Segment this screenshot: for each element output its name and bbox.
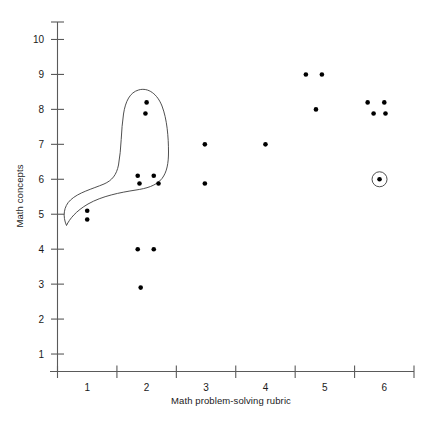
data-point (263, 142, 268, 147)
scatter-plot-figure: 12345678910 123456 Math problem-solving … (0, 0, 423, 421)
x-tick-label-3: 3 (203, 382, 209, 393)
y-tick-label-2: 2 (38, 314, 44, 325)
x-tick-label-1: 1 (84, 382, 90, 393)
data-point (143, 111, 148, 116)
data-point (144, 100, 149, 105)
data-point (137, 181, 142, 186)
data-point (371, 111, 376, 116)
data-points-group (85, 72, 388, 290)
x-tick-label-6: 6 (382, 382, 388, 393)
data-point (151, 173, 156, 178)
data-point (320, 72, 325, 77)
y-tick-label-8: 8 (38, 104, 44, 115)
data-point (135, 247, 140, 252)
x-tick-label-4: 4 (263, 382, 269, 393)
y-tick-label-6: 6 (38, 174, 44, 185)
data-point (383, 111, 388, 116)
y-tick-label-10: 10 (33, 34, 45, 45)
y-tick-label-4: 4 (38, 244, 44, 255)
data-point (151, 247, 156, 252)
y-tick-label-7: 7 (38, 139, 44, 150)
data-point (304, 72, 309, 77)
y-axis-title: Math concepts (14, 164, 25, 227)
cluster-outline-annotation (64, 89, 168, 225)
data-point (135, 173, 140, 178)
y-axis-tick-labels: 12345678910 (33, 34, 45, 360)
x-tick-label-5: 5 (322, 382, 328, 393)
y-tick-label-1: 1 (38, 349, 44, 360)
x-tick-label-2: 2 (144, 382, 150, 393)
y-tick-label-3: 3 (38, 279, 44, 290)
data-point (203, 142, 208, 147)
plot-canvas: 12345678910 123456 Math problem-solving … (0, 0, 423, 421)
y-tick-label-9: 9 (38, 69, 44, 80)
y-tick-label-5: 5 (38, 209, 44, 220)
data-point (85, 208, 90, 213)
data-point (377, 177, 382, 182)
data-point (203, 181, 208, 186)
data-point (365, 100, 370, 105)
data-point (314, 107, 319, 112)
data-point (138, 285, 143, 290)
data-point (85, 217, 90, 222)
data-point (156, 181, 161, 186)
x-axis-tick-labels: 123456 (84, 382, 387, 393)
data-point (382, 100, 387, 105)
x-axis-title: Math problem-solving rubric (171, 395, 291, 406)
